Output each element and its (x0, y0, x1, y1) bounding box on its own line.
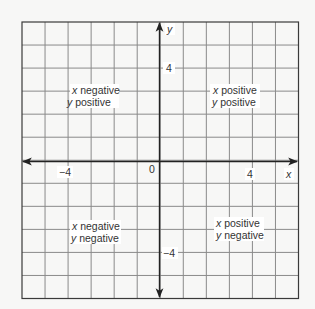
x-tick-label: −4 (59, 166, 71, 178)
y-axis-label: y (166, 23, 173, 35)
quadrant-label-line1: x negative (71, 84, 120, 96)
quadrant-label-line1: x positive (215, 217, 260, 229)
coordinate-plane: x y 0 −4 4 4 −4 x negative y positive x … (0, 0, 315, 309)
quadrant-label-line2: y positive (66, 96, 111, 108)
y-tick-label: 4 (166, 62, 172, 74)
grid-lines (22, 22, 299, 299)
quadrant-label-line2: y negative (70, 232, 119, 244)
y-tick-label: −4 (163, 247, 175, 259)
origin-label: 0 (149, 163, 155, 175)
quadrant-label-q4: x positive y negative (214, 217, 264, 241)
quadrant-label-line2: y negative (215, 229, 264, 241)
quadrant-label-q3: x negative y negative (70, 220, 121, 244)
quadrant-label-line2: y positive (211, 96, 256, 108)
x-axis-label: x (285, 168, 292, 180)
quadrant-label-line1: x positive (212, 84, 257, 96)
quadrant-label-line1: x negative (71, 220, 120, 232)
x-tick-label: 4 (247, 168, 253, 180)
quadrant-label-q1: x positive y positive (210, 84, 260, 108)
quadrant-label-q2: x negative y positive (66, 84, 120, 108)
